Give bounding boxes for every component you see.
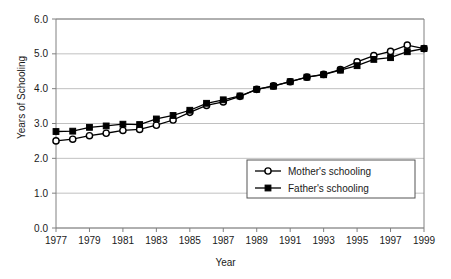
y-axis-tick-labels: 0.01.02.03.04.05.06.0 <box>34 14 48 234</box>
x-tick-label: 1981 <box>112 235 135 246</box>
x-tick-label: 1977 <box>45 235 68 246</box>
x-tick-label: 1993 <box>313 235 336 246</box>
data-point-filled-square <box>53 129 59 135</box>
data-point-open-circle <box>53 138 59 144</box>
data-point-open-circle <box>404 42 410 48</box>
x-axis-tick-labels: 1977197919811983198519871989199119931995… <box>45 235 436 246</box>
data-point-filled-square <box>337 67 343 73</box>
x-axis-ticks <box>56 228 424 232</box>
x-tick-label: 1995 <box>346 235 369 246</box>
data-point-filled-square <box>103 123 109 129</box>
data-point-filled-square <box>304 74 310 80</box>
data-point-open-circle <box>265 168 271 174</box>
data-point-filled-square <box>220 97 226 103</box>
data-point-open-circle <box>153 122 159 128</box>
chart-legend: Mother's schoolingFather's schooling <box>247 160 415 198</box>
data-point-filled-square <box>354 63 360 69</box>
x-tick-label: 1979 <box>78 235 101 246</box>
data-point-filled-square <box>120 121 126 127</box>
x-tick-label: 1999 <box>413 235 436 246</box>
data-point-filled-square <box>388 55 394 61</box>
data-point-filled-square <box>265 185 271 191</box>
legend-label: Mother's schooling <box>288 166 371 177</box>
data-point-open-circle <box>86 133 92 139</box>
x-tick-label: 1997 <box>379 235 402 246</box>
x-tick-label: 1991 <box>279 235 302 246</box>
data-point-filled-square <box>321 72 327 78</box>
y-tick-label: 1.0 <box>34 188 48 199</box>
series-line <box>56 49 424 132</box>
data-point-filled-square <box>153 116 159 122</box>
y-tick-label: 0.0 <box>34 223 48 234</box>
y-tick-label: 4.0 <box>34 83 48 94</box>
y-tick-label: 2.0 <box>34 153 48 164</box>
x-tick-label: 1985 <box>179 235 202 246</box>
data-point-filled-square <box>271 83 277 89</box>
data-series-layer <box>53 42 427 144</box>
x-tick-label: 1987 <box>212 235 235 246</box>
data-point-filled-square <box>70 128 76 134</box>
data-point-open-circle <box>120 127 126 133</box>
data-point-filled-square <box>187 107 193 113</box>
data-point-open-circle <box>387 48 393 54</box>
data-point-open-circle <box>103 130 109 136</box>
data-point-filled-square <box>287 79 293 85</box>
data-point-filled-square <box>237 93 243 99</box>
chart-container: Years of Schooling Year 0.01.02.03.04.05… <box>0 0 451 279</box>
data-point-filled-square <box>170 113 176 119</box>
legend-label: Father's schooling <box>288 183 369 194</box>
data-point-filled-square <box>87 124 93 130</box>
plot-area: 0.01.02.03.04.05.06.0 197719791981198319… <box>0 0 451 279</box>
y-tick-label: 6.0 <box>34 14 48 25</box>
data-point-filled-square <box>137 122 143 128</box>
data-point-filled-square <box>404 49 410 55</box>
data-point-open-circle <box>70 136 76 142</box>
data-point-filled-square <box>371 57 377 63</box>
y-tick-label: 3.0 <box>34 118 48 129</box>
data-point-filled-square <box>204 100 210 106</box>
series-filled-square <box>53 46 427 135</box>
x-tick-label: 1989 <box>246 235 269 246</box>
data-point-filled-square <box>254 86 260 92</box>
x-tick-label: 1983 <box>145 235 168 246</box>
y-tick-label: 5.0 <box>34 48 48 59</box>
data-point-filled-square <box>421 46 427 52</box>
